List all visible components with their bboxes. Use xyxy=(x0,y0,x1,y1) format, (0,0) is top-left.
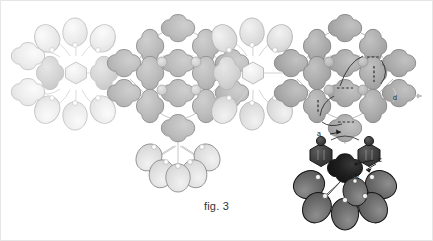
leader-dot-c xyxy=(354,162,357,165)
dark-cluster-shapes xyxy=(289,136,400,230)
cell-3-orbitals xyxy=(274,14,415,141)
dark-cluster xyxy=(289,136,400,230)
label-d: d xyxy=(393,94,397,101)
cell-0-orbitals xyxy=(11,18,120,130)
lattice-cell-0 xyxy=(11,18,120,130)
label-a: a xyxy=(317,130,321,137)
label-c: c xyxy=(378,156,382,163)
lattice-cell-3 xyxy=(274,14,415,144)
label-b: b xyxy=(355,172,359,179)
figure-caption: fig. 3 xyxy=(0,200,433,212)
